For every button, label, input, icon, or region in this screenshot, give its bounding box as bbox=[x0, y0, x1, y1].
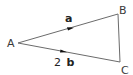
edge-bc bbox=[118, 14, 120, 62]
vector-triangle-diagram: A B C a 2 b bbox=[0, 0, 133, 75]
vector-label-2b: 2 b bbox=[54, 56, 75, 69]
vertex-label-c: C bbox=[121, 64, 129, 75]
arrow-icon-ac bbox=[60, 49, 67, 52]
vector-label-2b-coef: 2 bbox=[54, 56, 61, 69]
vector-label-a: a bbox=[65, 12, 72, 25]
vector-label-2b-var: b bbox=[67, 56, 75, 69]
arrow-icon-ab bbox=[67, 27, 74, 30]
vertex-label-a: A bbox=[7, 37, 15, 50]
vertex-label-b: B bbox=[119, 4, 127, 17]
